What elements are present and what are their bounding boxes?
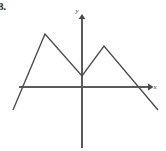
graph-curve: [13, 34, 158, 110]
y-axis-label: y: [74, 7, 79, 15]
y-axis-arrow-icon: [79, 14, 86, 19]
figure-container: 8. x y: [0, 0, 166, 151]
graph-plot: x y: [0, 0, 166, 151]
x-axis-label: x: [152, 83, 157, 91]
